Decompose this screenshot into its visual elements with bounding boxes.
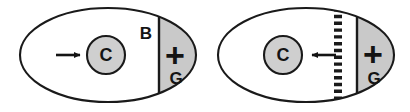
right-plus-label: + [363, 35, 383, 73]
diagram-canvas: C B + G [0, 0, 410, 112]
left-boundary-label: B [140, 24, 152, 43]
left-core-label: C [100, 45, 113, 65]
left-gas-label: G [169, 69, 182, 88]
panel-left: C B + G [20, 0, 196, 112]
right-core-label: C [277, 45, 290, 65]
panel-right: C + G [218, 0, 394, 112]
right-gas-label: G [367, 69, 380, 88]
diagram-figure: C B + G [0, 0, 410, 112]
